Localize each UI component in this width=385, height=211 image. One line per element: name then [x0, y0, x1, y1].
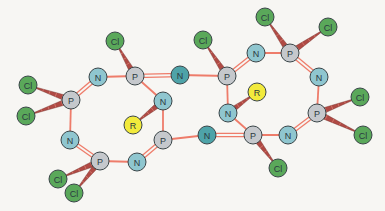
- chlorine-atom: Cl: [354, 126, 372, 144]
- atom-label: N: [160, 97, 167, 107]
- atom-label: N: [225, 109, 232, 119]
- atom-label: N: [285, 131, 292, 141]
- phosphorus-atom: P: [154, 131, 172, 149]
- atom-label: P: [250, 131, 256, 141]
- molecule-diagram: PClClNPClNNRPNPClClNPClNPClClNPClClNRNPC…: [0, 0, 385, 211]
- chlorine-atom: Cl: [106, 32, 124, 50]
- atom-label: Cl: [199, 36, 208, 46]
- r-group-atom: R: [248, 83, 266, 101]
- nitrogen-atom: N: [279, 126, 297, 144]
- atom-label: Cl: [54, 175, 63, 185]
- chlorine-atom: Cl: [269, 159, 287, 177]
- phosphorus-atom: P: [218, 67, 236, 85]
- atom-label: P: [287, 49, 293, 59]
- atom-label: P: [132, 72, 138, 82]
- bridging-nitrogen-atom: N: [198, 126, 216, 144]
- atom-label: Cl: [70, 189, 79, 199]
- r-group-atom: R: [124, 116, 142, 134]
- nitrogen-atom: N: [128, 153, 146, 171]
- phosphorus-atom: P: [91, 152, 109, 170]
- chlorine-atom: Cl: [351, 88, 369, 106]
- atom-label: R: [130, 121, 137, 131]
- atom-label: Cl: [24, 81, 33, 91]
- chlorine-atom: Cl: [194, 31, 212, 49]
- nitrogen-atom: N: [89, 68, 107, 86]
- atom-label: Cl: [324, 23, 333, 33]
- atom-label: N: [204, 131, 211, 141]
- atom-label: N: [134, 158, 141, 168]
- phosphorus-atom: P: [126, 67, 144, 85]
- phosphorus-atom: P: [244, 126, 262, 144]
- chlorine-atom: Cl: [319, 18, 337, 36]
- nitrogen-atom: N: [247, 44, 265, 62]
- phosphorus-atom: P: [62, 91, 80, 109]
- phosphorus-atom: P: [281, 44, 299, 62]
- bridging-nitrogen-atom: N: [171, 66, 189, 84]
- nitrogen-atom: N: [219, 104, 237, 122]
- chlorine-atom: Cl: [256, 8, 274, 26]
- atom-label: P: [314, 109, 320, 119]
- atom-label: P: [224, 72, 230, 82]
- chlorine-atom: Cl: [49, 170, 67, 188]
- atom-label: N: [95, 73, 102, 83]
- nitrogen-atom: N: [61, 131, 79, 149]
- atom-label: N: [177, 71, 184, 81]
- atom-label: P: [97, 157, 103, 167]
- chlorine-atom: Cl: [17, 107, 35, 125]
- chlorine-atom: Cl: [19, 76, 37, 94]
- chlorine-atom: Cl: [65, 184, 83, 202]
- atom-label: P: [160, 136, 166, 146]
- atom-label: R: [254, 88, 261, 98]
- phosphorus-atom: P: [308, 104, 326, 122]
- atom-label: Cl: [22, 112, 31, 122]
- atom-label: Cl: [356, 93, 365, 103]
- atom-label: Cl: [274, 164, 283, 174]
- atom-label: Cl: [359, 131, 368, 141]
- bonds-layer: [69, 52, 320, 163]
- atom-label: N: [67, 136, 74, 146]
- atom-label: Cl: [261, 13, 270, 23]
- nitrogen-atom: N: [154, 92, 172, 110]
- atom-label: P: [68, 96, 74, 106]
- atom-label: N: [316, 73, 323, 83]
- atom-label: Cl: [111, 37, 120, 47]
- atom-label: N: [253, 49, 260, 59]
- nitrogen-atom: N: [310, 68, 328, 86]
